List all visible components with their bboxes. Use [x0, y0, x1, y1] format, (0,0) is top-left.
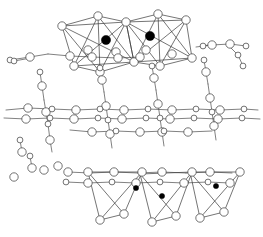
atom-open-large — [88, 53, 96, 61]
atom-open-small — [193, 106, 199, 112]
atom-open-large — [84, 168, 92, 176]
atom-open-large — [158, 168, 166, 176]
atom-open-large — [94, 12, 102, 20]
atom-open-small — [45, 121, 51, 127]
atom-open-small — [157, 115, 163, 121]
atom-open-large — [148, 218, 156, 226]
atom-open-small — [200, 43, 206, 49]
atom-open-small — [37, 69, 43, 75]
atom-open-small — [161, 128, 167, 134]
atom-open-small — [241, 106, 247, 112]
atom-open-small — [240, 63, 246, 69]
atom-open-large — [24, 104, 32, 112]
atom-open-large — [216, 106, 224, 114]
atom-open-small — [157, 179, 163, 185]
atom-open-large — [72, 106, 80, 114]
atom-open-large — [122, 18, 130, 26]
crystal-structure-figure — [0, 0, 263, 237]
atom-open-large — [166, 115, 174, 123]
atom-open-small — [235, 52, 241, 58]
atom-open-large — [98, 76, 106, 84]
atom-open-large — [206, 94, 214, 102]
atom-open-small — [63, 179, 69, 185]
structure-canvas — [0, 0, 263, 237]
atom-open-large — [10, 173, 18, 181]
atom-open-large — [54, 162, 62, 170]
atom-open-large — [168, 50, 176, 58]
atom-open-large — [188, 54, 196, 62]
atom-open-large — [156, 62, 164, 70]
atom-open-large — [70, 115, 78, 123]
atom-open-large — [184, 128, 192, 136]
atom-open-large — [28, 164, 36, 172]
atom-open-large — [168, 106, 176, 114]
atom-open-large — [180, 179, 188, 187]
atom-open-large — [206, 168, 214, 176]
atom-open-small — [149, 63, 155, 69]
atom-open-small — [95, 115, 101, 121]
atom-open-large — [138, 168, 146, 176]
atom-open-small — [145, 106, 151, 112]
atom-open-small — [209, 109, 215, 115]
atom-open-small — [205, 179, 211, 185]
atom-open-small — [109, 179, 115, 185]
atom-open-small — [143, 115, 149, 121]
atom-open-small — [97, 65, 103, 71]
atom-open-large — [154, 10, 162, 18]
atom-open-large — [64, 168, 72, 176]
atom-open-large — [220, 208, 228, 216]
atom-open-small — [113, 128, 119, 134]
atom-open-small — [27, 153, 33, 159]
atom-open-small — [201, 57, 207, 63]
atom-open-large — [188, 168, 196, 176]
atom-open-small — [191, 115, 197, 121]
atom-open-large — [96, 216, 104, 224]
atom-open-large — [226, 40, 234, 48]
atom-filled-small — [133, 185, 138, 190]
atom-filled-large — [145, 31, 154, 40]
atom-open-large — [142, 46, 150, 54]
atom-open-small — [243, 43, 249, 49]
atom-open-large — [118, 115, 126, 123]
atom-open-large — [114, 54, 122, 62]
atom-open-large — [196, 214, 204, 222]
atom-open-large — [136, 53, 144, 61]
atom-open-large — [226, 179, 234, 187]
atom-open-large — [40, 166, 48, 174]
atom-open-large — [120, 210, 128, 218]
atom-filled-small — [159, 193, 164, 198]
atom-open-large — [46, 136, 54, 144]
atom-open-large — [136, 128, 144, 136]
atom-open-large — [110, 168, 118, 176]
atom-open-large — [58, 22, 66, 30]
atom-open-large — [18, 148, 26, 156]
atom-open-large — [66, 52, 74, 60]
atom-open-large — [210, 122, 218, 130]
atom-open-large — [26, 53, 34, 61]
atom-open-small — [49, 106, 55, 112]
atom-open-large — [172, 212, 180, 220]
atom-open-large — [154, 100, 162, 108]
atom-open-large — [38, 82, 46, 90]
atom-open-large — [84, 179, 92, 187]
atom-open-large — [182, 16, 190, 24]
atom-filled-large — [101, 35, 110, 44]
atom-open-small — [17, 137, 23, 143]
atom-open-small — [47, 115, 53, 121]
atom-open-small — [239, 115, 245, 121]
atom-open-large — [202, 68, 210, 76]
atom-open-large — [88, 128, 96, 136]
atom-open-large — [120, 106, 128, 114]
atom-open-large — [70, 62, 78, 70]
atom-filled-small — [213, 183, 218, 188]
atom-open-small — [97, 106, 103, 112]
atom-open-large — [236, 168, 244, 176]
atom-open-small — [11, 58, 17, 64]
atom-open-large — [150, 74, 158, 82]
atom-open-small — [105, 117, 111, 123]
atom-open-large — [208, 41, 216, 49]
atom-open-large — [22, 115, 30, 123]
